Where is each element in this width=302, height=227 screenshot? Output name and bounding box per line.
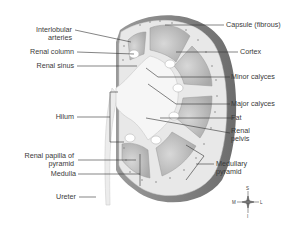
label-line: pelvis — [231, 135, 250, 143]
label-renal-sinus: Renal sinus — [2, 62, 74, 70]
label-medulla: Medulla — [2, 170, 76, 178]
label-ureter: Ureter — [2, 193, 76, 201]
label-line: Medulla — [2, 170, 76, 178]
label-renal-column: Renal column — [2, 48, 74, 56]
compass-south-label: I — [247, 213, 248, 221]
label-line: Fat — [231, 114, 241, 122]
label-line: Capsule (fibrous) — [226, 21, 281, 29]
label-line: pyramid — [216, 168, 247, 176]
kidney-diagram: Interlobular arteries Renal column Renal… — [0, 0, 302, 227]
label-line: Renal sinus — [2, 62, 74, 70]
label-line: arteries — [2, 34, 72, 42]
label-line: Major calyces — [231, 100, 275, 108]
label-capsule: Capsule (fibrous) — [226, 21, 281, 29]
label-line: Ureter — [2, 193, 76, 201]
label-line: Renal column — [2, 48, 74, 56]
label-line: pyramid — [2, 160, 74, 168]
label-line: Minor calyces — [231, 73, 275, 81]
label-minor-calyces: Minor calyces — [231, 73, 275, 81]
label-fat: Fat — [231, 114, 241, 122]
label-renal-pelvis: Renal pelvis — [231, 127, 250, 143]
compass-west-label: M — [232, 199, 236, 207]
label-hilum: Hilum — [2, 113, 74, 121]
label-line: Cortex — [240, 48, 261, 56]
label-cortex: Cortex — [240, 48, 261, 56]
compass-east-label: L — [260, 199, 263, 207]
compass-north-label: S — [246, 185, 249, 193]
label-line: Hilum — [2, 113, 74, 121]
label-major-calyces: Major calyces — [231, 100, 275, 108]
label-interlobular-arteries: Interlobular arteries — [2, 26, 72, 42]
label-medullary-pyramid: Medullary pyramid — [216, 160, 247, 176]
label-renal-papilla: Renal papilla of pyramid — [2, 152, 74, 168]
compass-rose — [237, 191, 259, 213]
